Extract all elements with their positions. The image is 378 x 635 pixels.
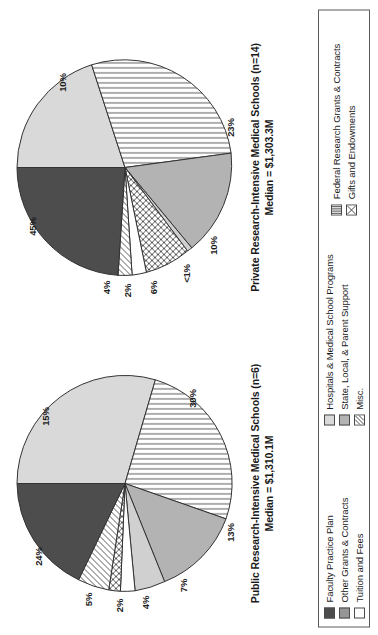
legend-swatch-solid-light-icon bbox=[324, 414, 335, 425]
legend-swatch-diagonal-hatch-icon bbox=[354, 414, 365, 425]
legend-label-faculty-practice-plan: Faculty Practice Plan bbox=[324, 515, 335, 602]
slice-label-private-other-grants: <1% bbox=[181, 264, 192, 283]
legend-swatch-solid-medium-icon bbox=[339, 607, 350, 618]
legend-item-misc[interactable]: Misc. bbox=[352, 215, 366, 425]
figure-rotator: 15% 30% 13% 7% 4% 2% 5% 24% Public Resea… bbox=[0, 0, 378, 635]
legend-swatch-solid-white-icon bbox=[354, 607, 365, 618]
legend-item-other-grants-contracts[interactable]: Other Grants & Contracts bbox=[337, 425, 351, 618]
slice-label-public-state: 13% bbox=[225, 523, 236, 541]
slice-label-private-gifts: 6% bbox=[148, 280, 159, 293]
pie-chart-private: 10% 23% 10% <1% 6% 2% 4% 45% bbox=[14, 56, 236, 278]
figure-canvas: 15% 30% 13% 7% 4% 2% 5% 24% Public Resea… bbox=[0, 0, 378, 635]
legend-label-misc: Misc. bbox=[354, 388, 365, 410]
legend-item-hospitals-medical-school-programs[interactable]: Hospitals & Medical School Programs bbox=[322, 215, 336, 425]
legend-item-state-local-parent-support[interactable]: State, Local, & Parent Support bbox=[337, 215, 351, 425]
slice-label-public-federal: 30% bbox=[187, 389, 198, 407]
chart-title-private: Private Research-Intensive Medical Schoo… bbox=[248, 17, 276, 317]
legend-item-gifts-and-endowments[interactable]: Gifts and Endowments bbox=[345, 18, 359, 215]
slice-label-private-federal: 23% bbox=[225, 118, 236, 136]
legend-item-tuition-and-fees[interactable]: Tuition and Fees bbox=[352, 425, 366, 618]
slice-label-private-misc: 4% bbox=[101, 280, 112, 293]
pie-slices-private bbox=[17, 59, 232, 275]
legend-label-other-grants-contracts: Other Grants & Contracts bbox=[339, 497, 350, 602]
legend-column-2: Hospitals & Medical School Programs Stat… bbox=[322, 215, 366, 425]
slice-label-private-faculty: 45% bbox=[27, 217, 38, 235]
pie-svg-public bbox=[14, 372, 236, 594]
legend-item-faculty-practice-plan[interactable]: Faculty Practice Plan bbox=[322, 425, 336, 618]
chart-title-private-line1: Private Research-Intensive Medical Schoo… bbox=[249, 43, 261, 292]
legend-swatch-solid-gray-icon bbox=[339, 414, 350, 425]
chart-subtitle-private: Median = $1,303.3M bbox=[262, 17, 276, 317]
legend-label-gifts-and-endowments: Gifts and Endowments bbox=[346, 105, 357, 199]
revenue-source-legend: Faculty Practice Plan Other Grants & Con… bbox=[318, 9, 370, 627]
slice-label-public-other-grants: 7% bbox=[178, 578, 189, 591]
legend-column-1: Faculty Practice Plan Other Grants & Con… bbox=[322, 425, 366, 618]
slice-label-public-tuition: 4% bbox=[140, 595, 151, 608]
legend-swatch-solid-dark-icon bbox=[324, 607, 335, 618]
slice-label-public-misc: 5% bbox=[83, 592, 94, 605]
legend-label-hospitals-medical-school-programs: Hospitals & Medical School Programs bbox=[324, 254, 335, 409]
slice-label-public-faculty: 24% bbox=[33, 547, 44, 565]
chart-panel-private: 10% 23% 10% <1% 6% 2% 4% 45% Private Res… bbox=[6, 17, 306, 317]
legend-swatch-crosshatch-icon bbox=[346, 204, 357, 215]
chart-title-public: Public Research-Intensive Medical School… bbox=[248, 333, 276, 633]
slice-label-private-tuition: 2% bbox=[122, 283, 133, 296]
chart-subtitle-public: Median = $1,310.1M bbox=[262, 333, 276, 633]
legend-label-state-local-parent-support: State, Local, & Parent Support bbox=[339, 284, 350, 409]
slice-label-public-gifts: 2% bbox=[114, 598, 125, 611]
pie-chart-public: 15% 30% 13% 7% 4% 2% 5% 24% bbox=[14, 372, 236, 594]
slice-label-private-hospitals: 10% bbox=[57, 73, 68, 91]
legend-label-tuition-and-fees: Tuition and Fees bbox=[354, 533, 365, 602]
slice-label-private-state: 10% bbox=[208, 236, 219, 254]
pie-svg-private bbox=[14, 56, 236, 278]
legend-item-federal-research-grants-contracts[interactable]: Federal Research Grants & Contracts bbox=[330, 18, 344, 215]
legend-swatch-vertical-stripes-icon bbox=[331, 204, 342, 215]
chart-title-public-line1: Public Research-Intensive Medical School… bbox=[249, 363, 261, 603]
chart-panel-public: 15% 30% 13% 7% 4% 2% 5% 24% Public Resea… bbox=[6, 333, 306, 633]
legend-column-3: Federal Research Grants & Contracts Gift… bbox=[330, 18, 359, 215]
legend-label-federal-research-grants-contracts: Federal Research Grants & Contracts bbox=[331, 43, 342, 198]
slice-label-public-hospitals: 15% bbox=[40, 407, 51, 425]
